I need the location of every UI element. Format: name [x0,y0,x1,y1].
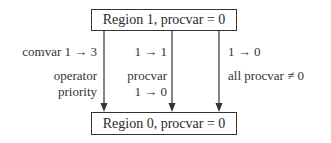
edge-3-label-line2: all procvar ≠ 0 [228,68,304,84]
edge-1-label-line3: priority [58,84,97,100]
node-region-1: Region 1, procvar = 0 [91,9,237,31]
edge-1-label-line2: operator [54,68,97,84]
node-region-1-label: Region 1, procvar = 0 [103,12,226,28]
arrowhead-2 [169,103,176,112]
edge-2-label-line1: 1 → 1 [135,44,168,60]
edge-2-label-line2: procvar [127,68,167,84]
edge-3-label-line1: 1 → 0 [228,44,261,60]
edge-2-label-line3: 1 → 0 [135,84,168,100]
node-region-0-label: Region 0, procvar = 0 [103,116,226,132]
node-region-0: Region 0, procvar = 0 [91,112,237,135]
edge-1-label-line1: comvar 1 → 3 [22,44,97,60]
arrowhead-3 [216,103,223,112]
arrowhead-1 [101,103,108,112]
